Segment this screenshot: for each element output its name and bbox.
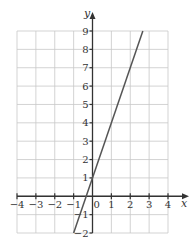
x-tick-label: 3 [146,199,152,210]
x-tick-label: 0 [94,199,100,210]
coordinate-plane: −4−3−2−101234−2−1123456789 x y [0,0,194,250]
y-tick-label: 9 [82,26,88,37]
x-tick-label: 2 [127,199,133,210]
y-axis-label: y [83,7,91,20]
y-tick-label: 8 [82,44,88,55]
y-tick-label: 7 [82,62,88,73]
tick-labels: −4−3−2−101234−2−1123456789 [10,26,172,239]
x-tick-label: −2 [47,199,62,210]
x-tick-label: 4 [165,199,171,210]
y-tick-label: 4 [82,117,88,128]
y-tick-label: 5 [82,99,88,110]
y-tick-label: 1 [82,172,88,183]
y-tick-label: 2 [82,154,88,165]
y-axis-arrow-icon [90,12,96,19]
x-tick-label: 1 [108,199,114,210]
x-tick-label: −3 [29,199,44,210]
x-tick-label: −4 [10,199,25,210]
y-tick-label: 3 [82,136,88,147]
y-tick-label: 6 [82,81,88,92]
y-tick-label: −2 [74,228,89,239]
x-axis-label: x [181,197,188,210]
